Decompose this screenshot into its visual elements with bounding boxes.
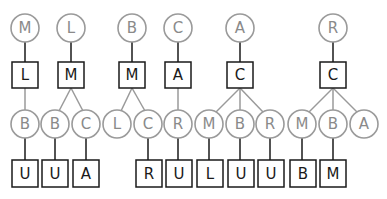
circle-node: A [226, 14, 254, 42]
square-node: M [320, 160, 346, 187]
svg-text:U: U [50, 165, 61, 183]
circle-node: B [118, 14, 146, 42]
svg-text:M: M [126, 66, 139, 84]
square-node: L [12, 62, 38, 88]
circle-node: C [134, 110, 162, 138]
circle-node: B [11, 110, 39, 138]
tree-6: R C M B A B M [288, 14, 378, 187]
square-node: M [119, 62, 145, 88]
circle-node: M [288, 110, 316, 138]
square-node: A [73, 160, 99, 187]
circle-node: R [256, 110, 284, 138]
edge [240, 88, 263, 112]
square-node: U [166, 160, 192, 187]
circle-node: L [57, 14, 85, 42]
edge [216, 88, 240, 112]
tree-5: A C M B R L U U [195, 14, 284, 187]
svg-text:C: C [328, 66, 338, 84]
circle-node: A [350, 110, 378, 138]
edge [121, 88, 132, 111]
svg-text:A: A [173, 66, 184, 84]
edge [71, 88, 83, 111]
edge [309, 88, 333, 112]
svg-text:B: B [20, 115, 30, 133]
tree-4: C A R U [164, 14, 192, 187]
edge [59, 88, 71, 111]
circle-node: R [319, 14, 347, 42]
svg-text:M: M [19, 19, 32, 37]
svg-text:B: B [50, 115, 60, 133]
svg-text:C: C [143, 115, 153, 133]
square-node: U [12, 160, 38, 187]
circle-node: L [103, 110, 131, 138]
tree-2: L M B C U A [41, 14, 100, 187]
svg-text:R: R [328, 19, 338, 37]
svg-text:M: M [296, 115, 309, 133]
square-node: U [228, 160, 254, 187]
square-node: U [42, 160, 68, 187]
svg-text:R: R [173, 115, 183, 133]
svg-text:A: A [235, 19, 246, 37]
svg-text:U: U [174, 165, 185, 183]
svg-text:M: M [327, 165, 340, 183]
svg-text:C: C [81, 115, 91, 133]
svg-text:M: M [65, 66, 78, 84]
square-node: R [136, 160, 162, 187]
svg-text:R: R [144, 165, 154, 183]
tree-diagram: M L B U L M B C U A B M L C R C A R U [0, 0, 387, 199]
svg-text:U: U [20, 165, 31, 183]
square-node: C [320, 62, 346, 88]
svg-text:C: C [173, 19, 183, 37]
svg-text:B: B [328, 115, 338, 133]
edge [333, 88, 357, 112]
circle-node: C [72, 110, 100, 138]
circle-node: M [11, 14, 39, 42]
svg-text:U: U [266, 165, 277, 183]
svg-text:U: U [236, 165, 247, 183]
svg-text:L: L [206, 165, 215, 183]
svg-text:L: L [67, 19, 76, 37]
tree-1: M L B U [11, 14, 39, 187]
square-node: U [258, 160, 284, 187]
square-node: A [165, 62, 191, 88]
svg-text:B: B [298, 165, 308, 183]
svg-text:B: B [127, 19, 137, 37]
square-node: L [197, 160, 223, 187]
circle-node: B [226, 110, 254, 138]
circle-node: B [41, 110, 69, 138]
square-node: B [290, 160, 316, 187]
tree-3: B M L C R [103, 14, 162, 187]
svg-text:C: C [235, 66, 245, 84]
svg-text:L: L [21, 66, 30, 84]
svg-text:A: A [81, 165, 92, 183]
circle-node: B [319, 110, 347, 138]
circle-node: R [164, 110, 192, 138]
square-node: C [227, 62, 253, 88]
svg-text:M: M [203, 115, 216, 133]
svg-text:R: R [265, 115, 275, 133]
circle-node: M [195, 110, 223, 138]
svg-text:B: B [235, 115, 245, 133]
circle-node: C [164, 14, 192, 42]
svg-text:A: A [359, 115, 370, 133]
square-node: M [58, 62, 84, 88]
svg-text:L: L [113, 115, 122, 133]
edge [132, 88, 145, 111]
